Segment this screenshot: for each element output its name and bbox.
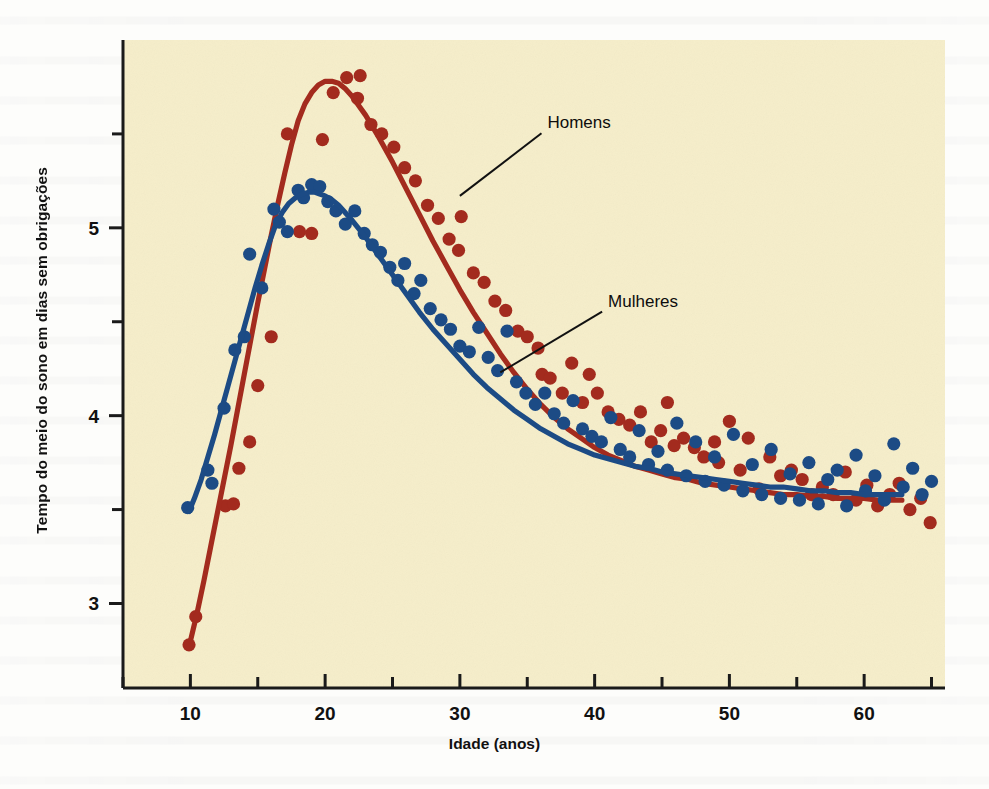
data-point	[566, 394, 579, 407]
data-point	[924, 516, 937, 529]
data-point	[903, 503, 916, 516]
data-point	[424, 302, 437, 315]
y-tick-label: 4	[88, 406, 99, 427]
data-point	[595, 435, 608, 448]
data-point	[633, 424, 646, 437]
x-axis-title-text: Idade (anos)	[449, 735, 540, 752]
data-point	[316, 133, 329, 146]
data-point	[755, 488, 768, 501]
data-point	[831, 464, 844, 477]
data-point	[327, 86, 340, 99]
data-point	[538, 387, 551, 400]
x-tick-label: 20	[315, 703, 336, 724]
data-point	[521, 330, 534, 343]
sleep-midpoint-by-age-figure: HomensMulheres 345102030405060 Tempo do …	[0, 0, 989, 789]
data-point	[765, 443, 778, 456]
data-point	[467, 266, 480, 279]
data-point	[409, 174, 422, 187]
series-label-mulheres: Mulheres	[608, 292, 678, 311]
data-point	[243, 248, 256, 261]
data-point	[452, 244, 465, 257]
data-point	[887, 437, 900, 450]
data-point	[443, 232, 456, 245]
data-point	[510, 375, 523, 388]
data-point	[472, 321, 485, 334]
data-point	[670, 417, 683, 430]
data-point	[519, 387, 532, 400]
data-point	[500, 325, 513, 338]
data-point	[499, 304, 512, 317]
data-point	[267, 202, 280, 215]
data-point	[812, 497, 825, 510]
data-point	[868, 469, 881, 482]
data-point	[734, 464, 747, 477]
data-point	[281, 225, 294, 238]
data-point	[488, 294, 501, 307]
data-point	[583, 368, 596, 381]
data-point	[265, 330, 278, 343]
data-point	[548, 407, 561, 420]
data-point	[482, 351, 495, 364]
data-point	[654, 424, 667, 437]
y-tick-label: 5	[88, 218, 99, 239]
y-axis-title-text: Tempo do meio do sono em dias sem obriga…	[33, 167, 51, 534]
data-point	[398, 257, 411, 270]
data-point	[354, 69, 367, 82]
data-point	[251, 379, 264, 392]
data-point	[661, 396, 674, 409]
data-point	[793, 494, 806, 507]
data-point	[604, 411, 617, 424]
series-label-homens: Homens	[547, 113, 610, 132]
x-axis-title: Idade (anos)	[0, 735, 989, 753]
data-point	[529, 398, 542, 411]
data-point	[925, 475, 938, 488]
data-point	[783, 467, 796, 480]
x-tick-label: 30	[449, 703, 470, 724]
x-tick-label: 10	[180, 703, 201, 724]
data-point	[796, 473, 809, 486]
data-point	[742, 432, 755, 445]
data-point	[414, 274, 427, 287]
data-point	[434, 313, 447, 326]
x-tick-label: 60	[854, 703, 875, 724]
data-point	[305, 227, 318, 240]
data-point	[556, 387, 569, 400]
data-point	[727, 428, 740, 441]
data-point	[557, 417, 570, 430]
data-point	[544, 371, 557, 384]
x-tick-label: 40	[584, 703, 605, 724]
y-tick-label: 3	[88, 593, 99, 614]
data-point	[478, 276, 491, 289]
data-point	[723, 415, 736, 428]
y-axis-title: Tempo do meio do sono em dias sem obriga…	[22, 0, 62, 700]
data-point	[591, 387, 604, 400]
data-point	[708, 435, 721, 448]
data-point	[463, 345, 476, 358]
data-point	[746, 458, 759, 471]
data-point	[232, 462, 245, 475]
data-point	[689, 435, 702, 448]
data-point	[634, 405, 647, 418]
data-point	[821, 473, 834, 486]
data-point	[432, 212, 445, 225]
data-point	[205, 477, 218, 490]
x-tick-label: 50	[719, 703, 740, 724]
data-point	[421, 199, 434, 212]
chart-canvas: HomensMulheres 345102030405060	[0, 0, 989, 789]
data-point	[455, 210, 468, 223]
data-point	[444, 323, 457, 336]
data-point	[293, 225, 306, 238]
data-point	[227, 497, 240, 510]
data-point	[340, 71, 353, 84]
data-point	[897, 480, 910, 493]
data-point	[708, 450, 721, 463]
data-point	[774, 492, 787, 505]
data-point	[906, 462, 919, 475]
data-point	[651, 445, 664, 458]
data-point	[802, 456, 815, 469]
data-point	[677, 432, 690, 445]
data-point	[840, 499, 853, 512]
data-point	[565, 356, 578, 369]
data-point	[915, 488, 928, 501]
data-point	[849, 448, 862, 461]
